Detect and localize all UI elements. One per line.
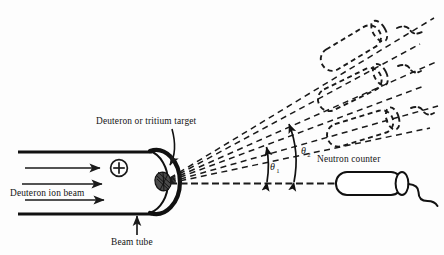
theta-1-subscript: 1 <box>276 167 279 174</box>
counter-label: Neutron counter <box>317 154 381 164</box>
ray-5 <box>170 44 420 179</box>
ray-4 <box>170 62 436 180</box>
target-label: Deuteron or tritium target <box>96 116 197 126</box>
neutron-counter-body[interactable] <box>336 172 402 195</box>
theta-2-label: θ <box>301 145 306 156</box>
counter-ghost-mid-cable <box>398 65 421 73</box>
neutron-counter-active[interactable] <box>336 172 438 206</box>
theta-1-label: θ <box>270 161 275 172</box>
theta-2-subscript: 2 <box>307 151 310 158</box>
theta-1-arc <box>267 147 269 182</box>
neutron-counter-end <box>396 172 409 195</box>
figure-root: θ 1 θ 2 <box>0 0 444 255</box>
counter-ghost-mid <box>314 62 391 115</box>
beam-tube-label: Beam tube <box>111 237 153 247</box>
counter-ghost-mid-body <box>314 64 385 114</box>
neutron-counter-cable <box>409 184 438 206</box>
theta-2-arc <box>289 124 296 182</box>
counter-ghost-high-body <box>317 21 385 75</box>
scattering-diagram: θ 1 θ 2 <box>0 0 444 255</box>
scattering-rays <box>170 18 438 183</box>
counter-ghost-high-cable <box>397 26 422 33</box>
counter-ghost-low-cable <box>411 107 434 115</box>
positive-charge-icon <box>111 160 128 177</box>
beam-source-label: Deuteron ion beam <box>10 188 85 198</box>
